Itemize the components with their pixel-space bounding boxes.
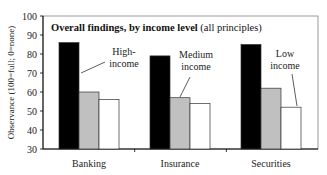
annotation-label: income (270, 60, 300, 71)
x-tick-label: Banking (72, 158, 106, 169)
x-tick-label: Insurance (161, 158, 200, 169)
annotation-label: High- (112, 46, 135, 57)
x-tick-label: Securities (251, 158, 291, 169)
y-tick-label: 70 (27, 68, 37, 79)
bar (99, 100, 119, 149)
bar (59, 43, 79, 149)
y-tick-label: 40 (27, 125, 37, 136)
bar (170, 98, 190, 149)
y-tick-label: 50 (27, 106, 37, 117)
bar (190, 103, 210, 149)
y-tick-label: 90 (27, 30, 37, 41)
annotation-label: Low (276, 48, 295, 59)
y-axis-label: Observance (100=full; 0=none) (6, 26, 16, 140)
bar (261, 88, 281, 149)
y-tick-label: 30 (27, 144, 37, 155)
bar (150, 56, 170, 149)
y-tick-label: 60 (27, 87, 37, 98)
bar (79, 92, 99, 149)
y-tick-label: 100 (22, 11, 37, 22)
chart-container: 30405060708090100Observance (100=full; 0… (0, 0, 327, 175)
annotation-label: income (109, 58, 139, 69)
y-tick-label: 80 (27, 49, 37, 60)
chart-title: Overall findings, by income level (all p… (51, 22, 262, 34)
bar-chart: 30405060708090100Observance (100=full; 0… (0, 0, 327, 175)
bar (281, 107, 301, 149)
annotation-label: Medium (179, 49, 213, 60)
annotation-label: income (181, 61, 211, 72)
bar (241, 45, 261, 150)
